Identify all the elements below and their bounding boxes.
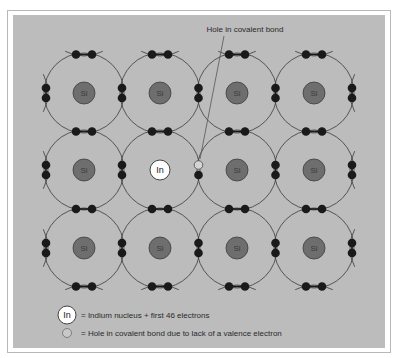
silicon-lattice-diagram: SiSiSiSiSiInSiSiSiSiSiSi xyxy=(0,0,397,358)
electron-icon xyxy=(302,127,311,136)
electron-icon xyxy=(118,171,127,180)
electron-icon xyxy=(302,205,311,214)
electron-icon xyxy=(302,282,311,291)
electron-icon xyxy=(148,127,157,136)
electron-icon xyxy=(118,161,127,170)
electron-icon xyxy=(348,94,357,103)
electron-icon xyxy=(225,127,234,136)
electron-icon xyxy=(72,205,81,214)
electron-icon xyxy=(271,161,280,170)
electron-icon xyxy=(42,94,51,103)
electron-icon xyxy=(241,50,250,59)
electron-icon xyxy=(88,50,97,59)
silicon-atom: Si xyxy=(226,159,248,181)
silicon-atom: Si xyxy=(73,82,95,104)
electron-icon xyxy=(88,127,97,136)
silicon-atom: Si xyxy=(303,82,325,104)
electron-icon xyxy=(148,50,157,59)
silicon-atom: Si xyxy=(149,237,171,259)
electron-icon xyxy=(42,84,51,93)
silicon-atom: Si xyxy=(226,82,248,104)
atom-symbol: Si xyxy=(80,89,87,98)
silicon-atom: Si xyxy=(303,159,325,181)
electron-icon xyxy=(271,239,280,248)
electron-icon xyxy=(118,239,127,248)
hole-icon xyxy=(194,161,203,170)
electron-icon xyxy=(225,50,234,59)
electron-icon xyxy=(42,249,51,258)
silicon-atom: Si xyxy=(73,237,95,259)
electron-icon xyxy=(148,205,157,214)
electron-icon xyxy=(164,50,173,59)
atom-symbol: Si xyxy=(310,89,317,98)
electron-icon xyxy=(148,282,157,291)
electron-icon xyxy=(194,239,203,248)
electron-icon xyxy=(241,127,250,136)
electron-icon xyxy=(42,239,51,248)
atom-symbol: Si xyxy=(233,244,240,253)
electron-icon xyxy=(271,84,280,93)
silicon-atom: Si xyxy=(73,159,95,181)
electron-icon xyxy=(194,171,203,180)
electron-icon xyxy=(164,127,173,136)
silicon-atom: Si xyxy=(226,237,248,259)
electron-icon xyxy=(72,50,81,59)
electron-icon xyxy=(194,94,203,103)
atom-symbol: Si xyxy=(80,166,87,175)
silicon-atom: Si xyxy=(149,82,171,104)
electron-icon xyxy=(241,205,250,214)
atom-symbol: Si xyxy=(310,244,317,253)
atom-symbol: Si xyxy=(233,166,240,175)
electron-icon xyxy=(348,239,357,248)
electron-icon xyxy=(302,50,311,59)
electron-icon xyxy=(118,94,127,103)
electron-icon xyxy=(348,84,357,93)
atom-symbol: In xyxy=(156,165,164,175)
electron-icon xyxy=(271,94,280,103)
electron-icon xyxy=(194,249,203,258)
electron-icon xyxy=(271,171,280,180)
electron-icon xyxy=(42,161,51,170)
electron-icon xyxy=(88,282,97,291)
atom-symbol: Si xyxy=(156,244,163,253)
indium-atom: In xyxy=(150,160,170,180)
electron-icon xyxy=(118,249,127,258)
electron-icon xyxy=(318,50,327,59)
electron-icon xyxy=(348,249,357,258)
electron-icon xyxy=(194,84,203,93)
electron-icon xyxy=(164,205,173,214)
electron-icon xyxy=(42,171,51,180)
atom-symbol: Si xyxy=(80,244,87,253)
atom-symbol: Si xyxy=(156,89,163,98)
silicon-atom: Si xyxy=(303,237,325,259)
electron-icon xyxy=(225,282,234,291)
electron-icon xyxy=(164,282,173,291)
electron-icon xyxy=(118,84,127,93)
atom-symbol: Si xyxy=(310,166,317,175)
electron-icon xyxy=(271,249,280,258)
electron-icon xyxy=(225,205,234,214)
electron-icon xyxy=(318,282,327,291)
electron-icon xyxy=(241,282,250,291)
electron-icon xyxy=(72,127,81,136)
atom-symbol: Si xyxy=(233,89,240,98)
electron-icon xyxy=(318,205,327,214)
electron-icon xyxy=(348,171,357,180)
electron-icon xyxy=(348,161,357,170)
electron-icon xyxy=(88,205,97,214)
electron-icon xyxy=(72,282,81,291)
electron-icon xyxy=(318,127,327,136)
